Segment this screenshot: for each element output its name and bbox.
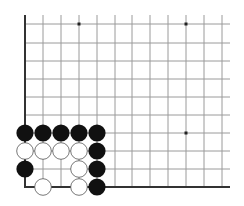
black-stone: [16, 160, 33, 177]
white-stone: [35, 179, 52, 196]
star-point: [185, 23, 188, 26]
white-stone: [71, 161, 88, 178]
black-stone: [34, 124, 51, 141]
white-stone: [17, 143, 34, 160]
black-stone: [88, 178, 105, 195]
black-stone: [16, 124, 33, 141]
black-stone: [70, 124, 87, 141]
go-board: [0, 0, 244, 206]
star-point: [78, 23, 81, 26]
black-stone: [88, 142, 105, 159]
board-edges: [24, 15, 230, 188]
white-stone: [35, 143, 52, 160]
white-stone: [53, 143, 70, 160]
star-point: [185, 132, 188, 135]
grid-lines: [25, 15, 230, 187]
white-stone: [71, 143, 88, 160]
white-stone: [71, 179, 88, 196]
black-stone: [88, 160, 105, 177]
black-stone: [52, 124, 69, 141]
black-stone: [88, 124, 105, 141]
